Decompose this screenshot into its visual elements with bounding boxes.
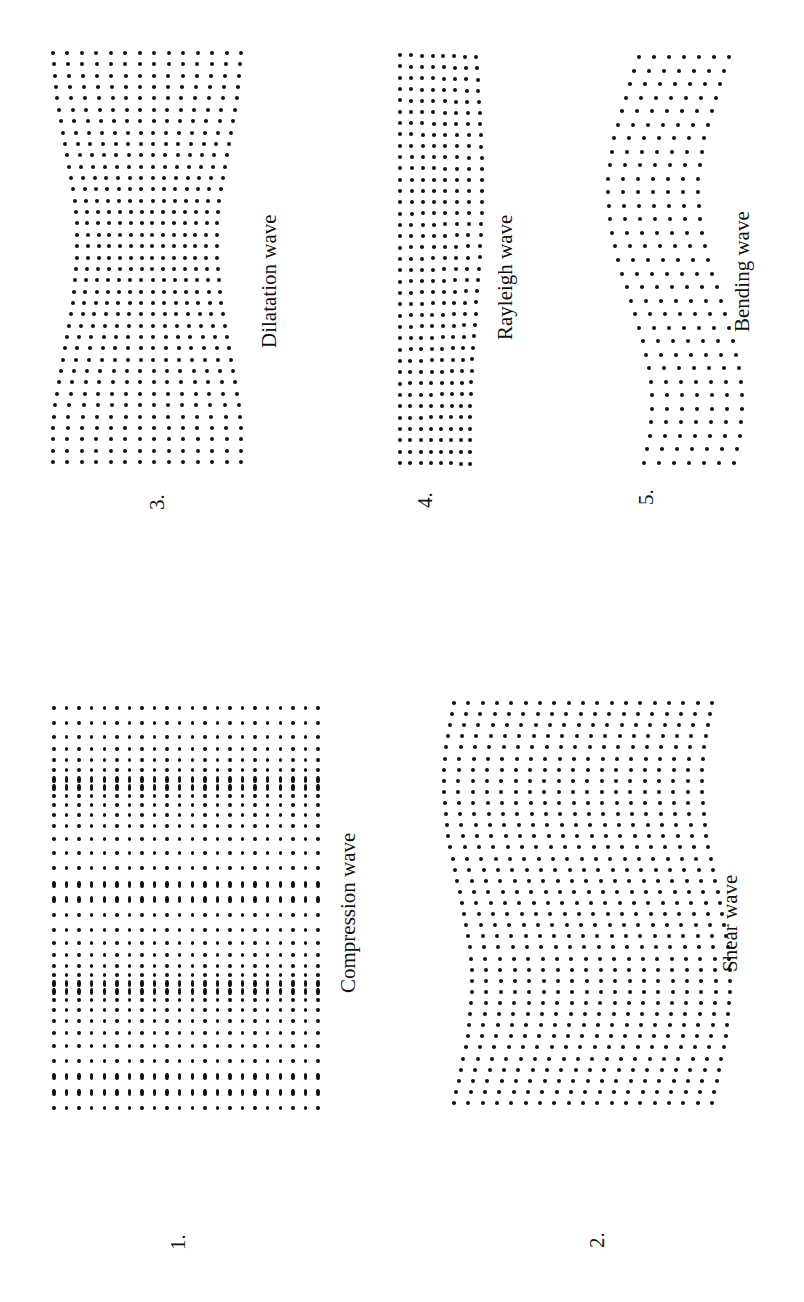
lattice-dot <box>595 701 599 705</box>
lattice-dot <box>601 812 605 816</box>
lattice-dot <box>316 706 320 710</box>
lattice-dot <box>65 824 69 828</box>
lattice-dot <box>165 108 169 112</box>
lattice-dot <box>421 211 425 215</box>
lattice-dot <box>304 953 308 957</box>
lattice-dot <box>279 851 283 855</box>
lattice-dot <box>304 1031 308 1035</box>
lattice-dot <box>65 1044 69 1048</box>
lattice-dot <box>420 88 424 92</box>
lattice-dot <box>193 244 197 248</box>
lattice-dot <box>612 136 616 140</box>
lattice-dot <box>94 301 98 305</box>
lattice-dot <box>616 123 620 127</box>
lattice-dot <box>528 768 532 772</box>
lattice-dot <box>304 1059 308 1063</box>
lattice-dot <box>279 881 283 888</box>
lattice-dot <box>161 256 165 260</box>
lattice-dot <box>106 199 110 203</box>
lattice-dot <box>649 845 653 849</box>
lattice-dot <box>442 65 446 69</box>
lattice-dot <box>443 99 447 103</box>
lattice-dot <box>140 210 144 214</box>
lattice-dot <box>628 82 632 86</box>
lattice-dot <box>459 438 463 442</box>
lattice-dot <box>86 119 90 123</box>
lattice-dot <box>604 834 608 838</box>
lattice-dot <box>674 1068 678 1072</box>
lattice-dot <box>166 415 170 419</box>
lattice-dot <box>90 1008 94 1012</box>
lattice-dot <box>662 1057 666 1061</box>
lattice-dot <box>113 358 117 362</box>
lattice-dot <box>291 988 295 995</box>
lattice-dot <box>439 415 443 419</box>
lattice-dot <box>398 427 402 431</box>
lattice-dot <box>102 335 106 339</box>
lattice-dot <box>670 1001 674 1005</box>
lattice-dot <box>266 1059 270 1063</box>
lattice-dot <box>90 973 94 977</box>
lattice-dot <box>558 890 562 894</box>
lattice-dot <box>65 837 69 841</box>
lattice-dot <box>266 721 270 725</box>
lattice-dot <box>543 801 547 805</box>
lattice-dot <box>228 721 232 725</box>
lattice-dot <box>680 857 684 861</box>
lattice-dot <box>665 407 669 411</box>
lattice-dot <box>90 913 94 917</box>
lattice-dot <box>191 747 195 751</box>
lattice-dot <box>409 302 413 306</box>
lattice-dot <box>165 794 169 798</box>
lattice-dot <box>398 76 402 80</box>
lattice-dot <box>203 896 207 903</box>
lattice-dot <box>509 701 513 705</box>
lattice-dot <box>526 957 530 961</box>
lattice-dot <box>461 834 465 838</box>
lattice-dot <box>253 941 257 945</box>
lattice-dot <box>304 776 308 783</box>
lattice-dot <box>665 923 669 927</box>
lattice-dot <box>461 1057 465 1061</box>
lattice-dot <box>442 301 446 305</box>
lattice-dot <box>103 165 107 169</box>
lattice-dot <box>202 346 206 350</box>
lattice-dot <box>654 96 658 100</box>
lattice-dot <box>203 1089 207 1096</box>
lattice-dot <box>165 941 169 945</box>
lattice-dot <box>115 1008 119 1012</box>
lattice-dot <box>304 851 308 855</box>
lattice-dot <box>304 896 308 903</box>
lattice-dot <box>653 1101 657 1105</box>
lattice-dot <box>65 953 69 957</box>
lattice-dot <box>507 1045 511 1049</box>
lattice-dot <box>586 801 590 805</box>
lattice-dot <box>711 1023 715 1027</box>
lattice-dot <box>409 110 413 114</box>
lattice-dot <box>620 845 624 849</box>
lattice-dot <box>667 326 671 330</box>
lattice-dot <box>103 837 107 841</box>
lattice-dot <box>498 957 502 961</box>
panel-number-4: 4. <box>413 492 438 508</box>
lattice-dot <box>439 427 443 431</box>
lattice-dot <box>126 142 130 146</box>
lattice-dot <box>241 1031 245 1035</box>
lattice-dot <box>560 823 564 827</box>
lattice-dot <box>688 1068 692 1072</box>
lattice-dot <box>253 1059 257 1063</box>
lattice-dot <box>521 712 525 716</box>
lattice-dot <box>115 706 119 710</box>
lattice-dot <box>713 1001 717 1005</box>
lattice-dot <box>631 745 635 749</box>
lattice-dot <box>279 747 283 751</box>
lattice-dot <box>115 324 119 328</box>
lattice-dot <box>77 998 81 1002</box>
lattice-dot <box>181 415 185 419</box>
lattice-dot <box>95 74 99 78</box>
lattice-dot <box>165 1106 169 1110</box>
lattice-dot <box>709 380 713 384</box>
lattice-dot <box>410 155 414 159</box>
lattice-dot <box>139 324 143 328</box>
lattice-dot <box>211 165 215 169</box>
